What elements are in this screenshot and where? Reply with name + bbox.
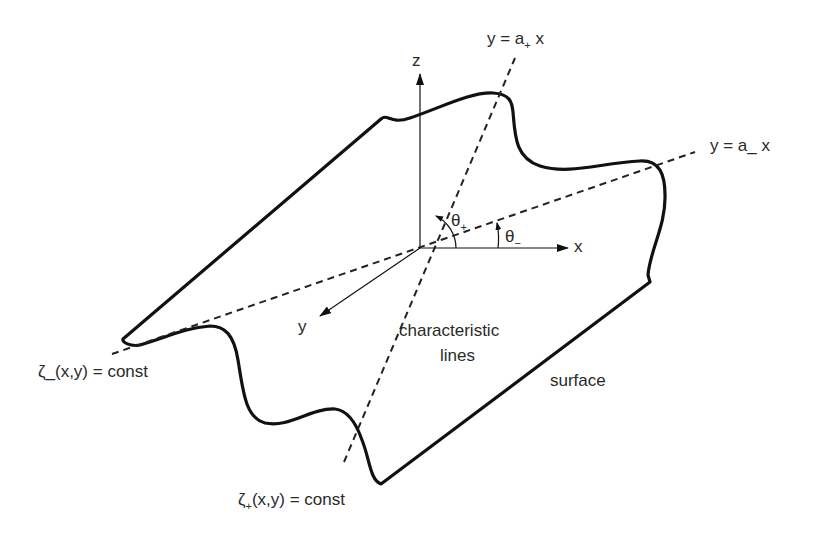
surface-label: surface [550, 372, 606, 389]
theta-minus-arc [497, 223, 499, 248]
line-plus-equation: y = a+ x [487, 30, 544, 47]
y-axis-label: y [298, 318, 307, 335]
z-axis-label: z [412, 52, 421, 69]
zeta-plus-label: ζ+(x,y) = const [238, 491, 345, 508]
zeta-minus-label: ζ_(x,y) = const [38, 363, 148, 380]
theta-minus-label: θ− [505, 228, 521, 245]
x-axis-label: x [574, 238, 583, 255]
theta-plus-label: θ+ [451, 212, 467, 229]
line-minus-equation: y = a_ x [710, 137, 770, 154]
y-axis [320, 248, 420, 316]
surface-outline [123, 93, 665, 484]
diagram-canvas [0, 0, 815, 542]
lines-label: lines [440, 347, 475, 364]
characteristic-label: characteristic [399, 322, 499, 339]
